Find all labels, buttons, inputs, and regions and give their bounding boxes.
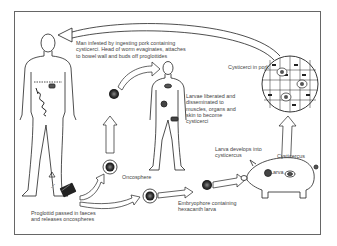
label-man-infested: Man infested by ingesting pork containin… [76,40,186,59]
embryophore-stage [143,174,245,203]
label-oncosphere: Oncosphere [122,174,151,180]
label-proglottid-passed: Proglottid passed in faeces and releases… [31,210,96,223]
label-cysticercus: Cysticercus [277,153,305,159]
human-host-figure [20,34,76,196]
pig-host-figure [241,158,318,198]
label-larva-develops: Larva develops into cysticercus [215,146,262,159]
label-cysticerci-in-pork: Cysticerci in pork [228,64,269,70]
label-larvae-liberated: Larvae liberated and disseminated to mus… [186,93,236,124]
human-cysticercosis-figure [149,62,186,171]
oncosphere-stage [103,62,160,174]
cysticerci-in-pork-view [262,56,318,112]
proglottid-icon: ⋰ [49,172,76,197]
label-larva: Larva [270,169,284,175]
label-embryophore: Embryophore containing hexacanth larva [178,200,236,213]
svg-text:⋰: ⋰ [51,183,55,188]
